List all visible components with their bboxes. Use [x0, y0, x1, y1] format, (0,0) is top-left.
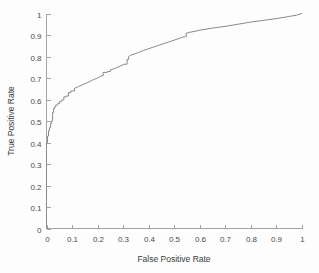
y-tick-label: 0.3 — [30, 161, 42, 170]
y-tick-label: 0.6 — [30, 97, 42, 106]
x-tick-label: 0.3 — [118, 235, 130, 244]
y-tick-label: 0 — [37, 226, 42, 235]
roc-chart-svg: 00.10.20.30.40.50.60.70.80.91 00.10.20.3… — [0, 0, 319, 273]
x-tick-label: 0.7 — [220, 235, 232, 244]
y-axis-title: True Positive Rate — [6, 86, 16, 156]
y-tick-label: 0.7 — [30, 75, 42, 84]
axis-frame — [47, 14, 302, 229]
y-tick-label: 0.8 — [30, 54, 42, 63]
x-tick-label: 0.6 — [195, 235, 207, 244]
x-axis-ticks — [48, 225, 303, 229]
y-tick-label: 0.9 — [30, 32, 42, 41]
y-tick-label: 0.1 — [30, 204, 42, 213]
x-tick-label: 0.9 — [271, 235, 283, 244]
x-tick-label: 0 — [45, 235, 50, 244]
y-tick-label: 1 — [37, 11, 42, 20]
y-axis-ticks — [47, 15, 51, 230]
x-tick-label: 0.2 — [93, 235, 105, 244]
y-axis-tick-labels: 00.10.20.30.40.50.60.70.80.91 — [30, 11, 42, 235]
x-tick-label: 0.4 — [144, 235, 156, 244]
y-tick-label: 0.2 — [30, 183, 42, 192]
y-tick-label: 0.4 — [30, 140, 42, 149]
x-tick-label: 0.1 — [67, 235, 79, 244]
roc-curve-line — [47, 14, 302, 229]
x-tick-label: 1 — [300, 235, 305, 244]
x-tick-label: 0.5 — [169, 235, 181, 244]
roc-figure: 00.10.20.30.40.50.60.70.80.91 00.10.20.3… — [0, 0, 319, 273]
y-tick-label: 0.5 — [30, 118, 42, 127]
x-tick-label: 0.8 — [246, 235, 258, 244]
x-axis-title: False Positive Rate — [137, 254, 210, 264]
x-axis-tick-labels: 00.10.20.30.40.50.60.70.80.91 — [45, 235, 305, 244]
